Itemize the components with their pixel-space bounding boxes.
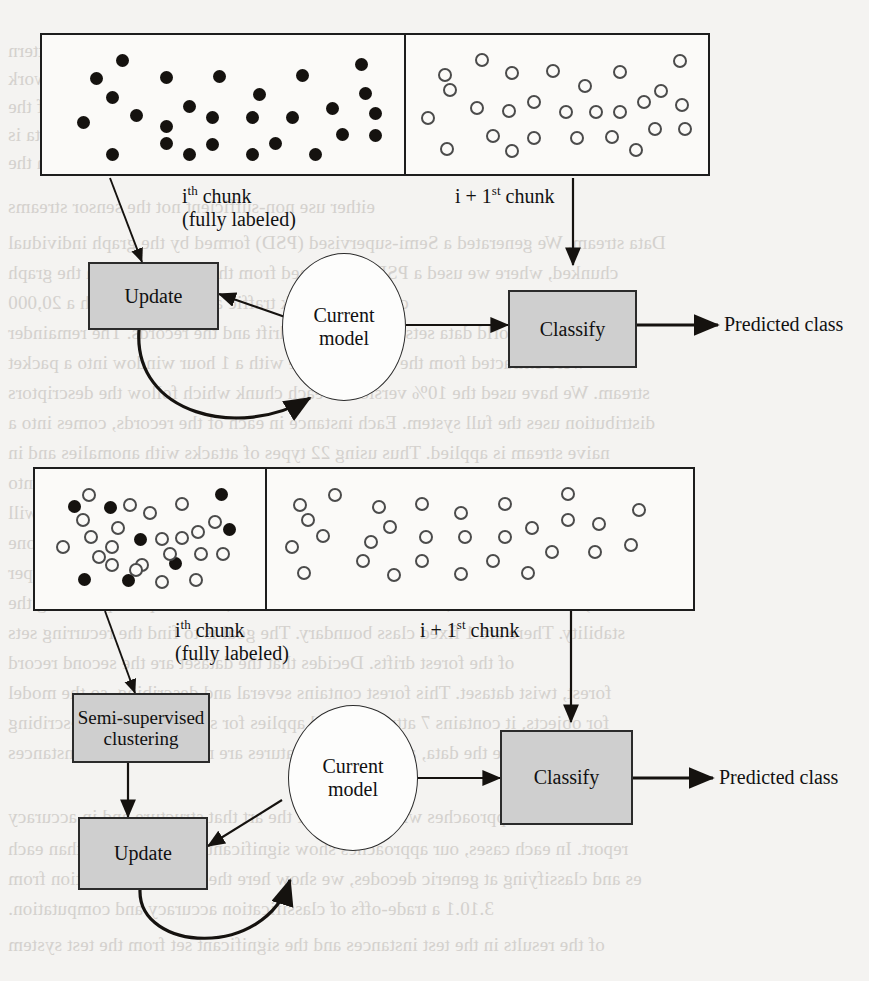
unlabeled-instance-marker: [561, 487, 575, 501]
labeled-instance-marker: [369, 107, 382, 120]
unlabeled-instance-marker: [155, 532, 169, 546]
chunk-divider-bottom: [265, 467, 267, 611]
unlabeled-instance-marker: [546, 64, 560, 78]
chunk-divider-top: [404, 33, 406, 176]
node-update-bottom[interactable]: Update: [78, 817, 208, 890]
labeled-instance-marker: [183, 100, 196, 113]
unlabeled-instance-marker: [316, 529, 330, 543]
unlabeled-instance-marker: [570, 131, 584, 145]
unlabeled-instance-marker: [216, 547, 230, 561]
chunk-panel-top: [40, 33, 710, 176]
node-semi-supervised-clustering-bottom[interactable]: Semi-supervisedclustering: [72, 693, 210, 763]
unlabeled-instance-marker: [82, 488, 96, 502]
chunk-label-left-bottom-line2: (fully labeled): [175, 642, 289, 664]
node-update-top-label: Update: [125, 285, 183, 307]
node-current-model-top[interactable]: Currentmodel: [282, 253, 406, 401]
node-clustering-label: Semi-supervisedclustering: [78, 707, 205, 750]
unlabeled-instance-marker: [632, 503, 646, 517]
unlabeled-instance-marker: [673, 54, 687, 68]
labeled-instance-marker: [78, 573, 91, 586]
unlabeled-instance-marker: [443, 83, 457, 97]
chunk-label-left-bottom: ith chunk (fully labeled): [175, 617, 289, 666]
unlabeled-instance-marker: [155, 575, 169, 589]
labeled-instance-marker: [130, 109, 143, 122]
chunk-label-left-top: ith chunk (fully labeled): [182, 183, 296, 232]
unlabeled-instance-marker: [419, 530, 433, 544]
unlabeled-instance-marker: [498, 530, 512, 544]
node-current-model-top-label: Currentmodel: [313, 304, 374, 350]
unlabeled-instance-marker: [578, 79, 592, 93]
unlabeled-instance-marker: [191, 525, 205, 539]
unlabeled-instance-marker: [364, 535, 378, 549]
labeled-instance-marker: [90, 72, 103, 85]
unlabeled-instance-marker: [561, 513, 575, 527]
unlabeled-instance-marker: [624, 538, 638, 552]
arrow-chunk-to-update-top: [110, 178, 142, 262]
labeled-instance-marker: [296, 69, 309, 82]
unlabeled-instance-marker: [675, 98, 689, 112]
unlabeled-instance-marker: [175, 497, 189, 511]
figure-layer: ith chunk (fully labeled) i + 1st chunk …: [0, 0, 869, 981]
unlabeled-instance-marker: [654, 84, 668, 98]
labeled-instance-marker: [160, 71, 173, 84]
unlabeled-instance-marker: [175, 531, 189, 545]
output-predicted-class-top: Predicted class: [724, 313, 843, 336]
unlabeled-instance-marker: [438, 68, 452, 82]
labeled-instance-marker: [160, 137, 173, 150]
unlabeled-instance-marker: [525, 521, 539, 535]
unlabeled-instance-marker: [285, 540, 299, 554]
unlabeled-instance-marker: [458, 530, 472, 544]
labeled-instance-marker: [253, 88, 266, 101]
labeled-instance-marker: [336, 128, 349, 141]
labeled-instance-marker: [326, 102, 339, 115]
unlabeled-instance-marker: [527, 95, 541, 109]
unlabeled-instance-marker: [648, 122, 662, 136]
unlabeled-instance-marker: [372, 500, 386, 514]
labeled-instance-marker: [160, 120, 173, 133]
node-update-top[interactable]: Update: [88, 262, 219, 330]
node-current-model-bottom[interactable]: Currentmodel: [288, 705, 418, 851]
unlabeled-instance-marker: [189, 573, 203, 587]
unlabeled-instance-marker: [521, 566, 535, 580]
unlabeled-instance-marker: [498, 497, 512, 511]
unlabeled-instance-marker: [383, 520, 397, 534]
node-classify-top[interactable]: Classify: [508, 290, 637, 368]
unlabeled-instance-marker: [92, 550, 106, 564]
labeled-instance-marker: [134, 533, 147, 546]
chunk-label-right-bottom: i + 1st chunk: [420, 617, 519, 642]
labeled-instance-marker: [68, 500, 81, 513]
unlabeled-instance-marker: [163, 547, 177, 561]
chunk-label-left-top-line1: ith chunk: [182, 185, 252, 207]
chunk-label-right-top: i + 1st chunk: [455, 183, 554, 208]
unlabeled-instance-marker: [76, 513, 90, 527]
node-current-model-bottom-label: Currentmodel: [322, 755, 383, 801]
unlabeled-instance-marker: [678, 122, 692, 136]
unlabeled-instance-marker: [194, 547, 208, 561]
labeled-instance-marker: [77, 116, 90, 129]
unlabeled-instance-marker: [486, 129, 500, 143]
labeled-instance-marker: [359, 87, 372, 100]
unlabeled-instance-marker: [84, 530, 98, 544]
node-classify-bottom[interactable]: Classify: [500, 730, 633, 825]
node-classify-top-label: Classify: [540, 318, 606, 340]
unlabeled-instance-marker: [470, 101, 484, 115]
arrow-chunk-to-clustering-bottom: [105, 611, 135, 693]
chunk-label-left-bottom-line1: ith chunk: [175, 619, 245, 641]
node-classify-bottom-label: Classify: [534, 766, 600, 788]
labeled-instance-marker: [104, 501, 117, 514]
unlabeled-instance-marker: [527, 131, 541, 145]
node-update-bottom-label: Update: [114, 842, 172, 864]
labeled-instance-marker: [213, 70, 226, 83]
output-predicted-class-bottom: Predicted class: [719, 766, 838, 789]
unlabeled-instance-marker: [454, 567, 468, 581]
unlabeled-instance-marker: [589, 105, 603, 119]
unlabeled-instance-marker: [56, 540, 70, 554]
unlabeled-instance-marker: [605, 130, 619, 144]
unlabeled-instance-marker: [301, 513, 315, 527]
unlabeled-instance-marker: [297, 566, 311, 580]
chunk-label-left-top-line2: (fully labeled): [182, 208, 296, 230]
arrow-model-to-update-bottom: [208, 800, 282, 846]
